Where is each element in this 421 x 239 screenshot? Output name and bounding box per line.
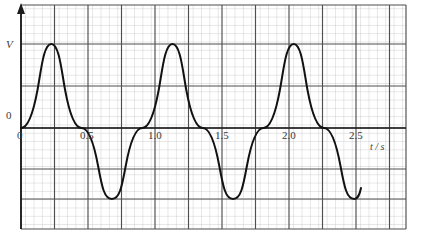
y-axis-tick-zero: 0 (6, 110, 12, 121)
x-axis-label-t-over-s: t / s (370, 141, 384, 152)
graph-canvas (0, 0, 421, 239)
graph-figure: V 0 0 0.5 1.0 1.5 2.0 2.5 t / s (0, 0, 421, 239)
y-axis-label-v: V (6, 39, 13, 50)
x-axis-tick-1-0: 1.0 (148, 130, 162, 141)
x-axis-tick-0-5: 0.5 (80, 130, 94, 141)
x-axis-tick-1-5: 1.5 (215, 130, 229, 141)
x-axis-tick-0: 0 (17, 130, 23, 141)
x-axis-tick-2-0: 2.0 (282, 130, 296, 141)
x-axis-tick-2-5: 2.5 (349, 130, 363, 141)
